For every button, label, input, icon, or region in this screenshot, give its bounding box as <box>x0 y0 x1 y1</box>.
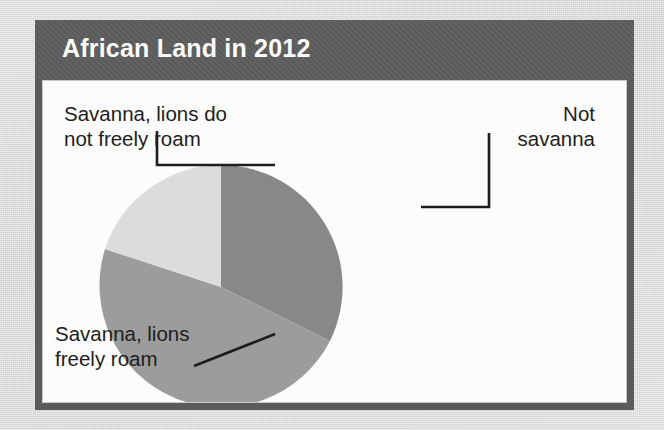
page-title: African Land in 2012 <box>62 34 311 63</box>
figure-card: African Land in 2012 Savanna, lions do n… <box>35 20 634 410</box>
figure-title-bar: African Land in 2012 <box>35 20 634 80</box>
pie-label-not-savanna: Not savanna <box>475 101 595 151</box>
chart-area: Savanna, lions do not freely roam Savann… <box>42 80 627 403</box>
pie-label-savanna-lions-do-not-freely-roam: Savanna, lions do not freely roam <box>64 101 227 151</box>
pie-label-savanna-lions-freely-roam: Savanna, lions freely roam <box>55 321 189 371</box>
